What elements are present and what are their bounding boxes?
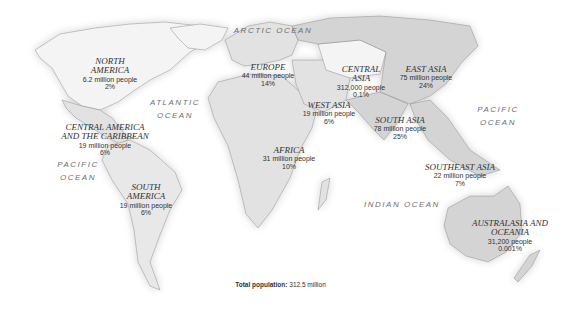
region-name: OCEANIA — [455, 228, 561, 237]
region-name: SOUTH ASIA — [355, 116, 445, 125]
region-label-south-asia: SOUTH ASIA 78 million people 25% — [355, 116, 445, 140]
new-zealand-shape — [514, 250, 540, 282]
region-label-africa: AFRICA 31 million people 10% — [249, 146, 329, 170]
region-population: 19 million people — [55, 142, 155, 149]
region-percent: 0.1% — [321, 91, 401, 98]
region-percent: 7% — [410, 180, 510, 187]
region-percent: 14% — [228, 80, 308, 87]
ocean-name: PACIFIC — [57, 160, 98, 169]
madagascar-shape — [318, 178, 330, 210]
region-percent: 25% — [355, 133, 445, 140]
ocean-label-indian: INDIAN OCEAN — [352, 199, 452, 212]
region-population: 31,200 people — [455, 238, 561, 245]
region-population: 19 million people — [106, 202, 186, 209]
region-name: EUROPE — [228, 63, 308, 72]
region-label-southeast-asia: SOUTHEAST ASIA 22 million people 7% — [410, 163, 510, 187]
region-population: 31 million people — [249, 155, 329, 162]
region-percent: 6% — [55, 149, 155, 156]
ocean-name: ARCTIC OCEAN — [234, 26, 312, 35]
region-population: 44 million people — [228, 72, 308, 79]
region-label-north-america: NORTH AMERICA 6.2 million people 2% — [70, 57, 150, 91]
region-name: AFRICA — [249, 146, 329, 155]
ocean-name: OCEAN — [60, 173, 96, 182]
region-percent: 2% — [70, 83, 150, 90]
region-percent: 0.001% — [455, 245, 561, 252]
region-label-east-asia: EAST ASIA 75 million people 24% — [381, 65, 471, 89]
region-percent: 6% — [106, 209, 186, 216]
region-population: 22 million people — [410, 172, 510, 179]
region-population: 75 million people — [381, 74, 471, 81]
ocean-name: PACIFIC — [477, 105, 518, 114]
region-label-australasia-oceania: AUSTRALASIA AND OCEANIA 31,200 people 0.… — [455, 219, 561, 253]
region-population: 6.2 million people — [70, 76, 150, 83]
ocean-label-pacific-west: PACIFIC OCEAN — [48, 159, 108, 185]
total-population: Total population: 312.5 million — [0, 281, 561, 288]
region-percent: 10% — [249, 163, 329, 170]
region-population: 78 million people — [355, 125, 445, 132]
ocean-label-atlantic: ATLANTIC OCEAN — [145, 97, 205, 123]
ocean-label-arctic: ARCTIC OCEAN — [228, 25, 318, 38]
total-population-value: 312.5 million — [289, 281, 326, 288]
region-name: AMERICA — [70, 66, 150, 75]
ocean-name: ATLANTIC — [150, 98, 200, 107]
region-label-europe: EUROPE 44 million people 14% — [228, 63, 308, 87]
region-name: EAST ASIA — [381, 65, 471, 74]
ocean-name: INDIAN OCEAN — [364, 200, 440, 209]
region-name: AND THE CARIBBEAN — [55, 132, 155, 141]
total-population-label: Total population: — [235, 281, 287, 288]
ocean-name: OCEAN — [157, 111, 193, 120]
region-name: SOUTHEAST ASIA — [410, 163, 510, 172]
region-label-south-america: SOUTH AMERICA 19 million people 6% — [106, 183, 186, 217]
region-name: AMERICA — [106, 192, 186, 201]
region-name: WEST ASIA — [289, 101, 369, 110]
region-label-central-america: CENTRAL AMERICA AND THE CARIBBEAN 19 mil… — [55, 123, 155, 157]
ocean-label-pacific-east: PACIFIC OCEAN — [468, 104, 528, 130]
region-percent: 24% — [381, 82, 471, 89]
ocean-name: OCEAN — [480, 118, 516, 127]
